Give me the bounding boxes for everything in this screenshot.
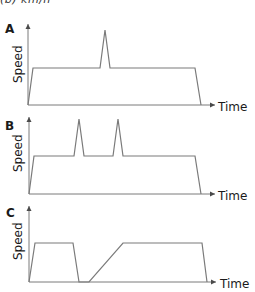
speed-trace	[28, 30, 201, 105]
x-axis-label: Time	[217, 189, 247, 203]
y-axis-label: Speed	[11, 134, 25, 172]
x-axis-label: Time	[219, 277, 249, 291]
panel-a: A Speed Time	[5, 22, 247, 114]
panel-c: C Speed Time	[6, 206, 249, 291]
panel-label: B	[5, 119, 14, 133]
x-axis-label: Time	[217, 100, 247, 114]
panel-label: C	[6, 206, 15, 220]
y-axis-label: Speed	[11, 45, 25, 83]
panel-label: A	[5, 22, 15, 36]
speed-time-diagrams: A Speed Time B Speed Time C Speed Time	[0, 0, 255, 292]
speed-trace	[29, 243, 207, 282]
y-axis-label: Speed	[11, 222, 25, 260]
speed-trace	[29, 119, 201, 194]
panel-b: B Speed Time	[5, 117, 247, 203]
